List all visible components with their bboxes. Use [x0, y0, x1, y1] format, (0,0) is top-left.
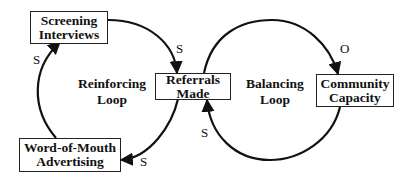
- polarity-referrals-to-capacity: O: [340, 42, 349, 56]
- loop-label-line2: Loop: [72, 92, 152, 108]
- link-screening-to-referrals: [108, 20, 177, 73]
- loop-label-line2: Loop: [237, 92, 313, 108]
- node-community-capacity: Community Capacity: [316, 74, 394, 107]
- link-referrals-to-wom: [121, 99, 178, 160]
- link-referrals-to-capacity: [204, 20, 338, 74]
- polarity-capacity-to-referrals: S: [201, 126, 208, 140]
- loop-label-reinforcing: Reinforcing Loop: [72, 76, 152, 108]
- node-word-of-mouth-advertising: Word-of-Mouth Advertising: [19, 138, 121, 172]
- node-referrals-made: Referrals Made: [155, 73, 231, 100]
- polarity-wom-to-screening: S: [33, 53, 40, 67]
- node-label-line1: Screening: [39, 14, 100, 28]
- node-label-line1: Community: [320, 77, 389, 91]
- link-wom-to-screening: [38, 42, 60, 138]
- node-label-line1: Referrals: [166, 73, 220, 87]
- link-capacity-to-referrals: [207, 100, 340, 160]
- loop-label-line1: Reinforcing: [72, 76, 152, 92]
- loop-label-balancing: Balancing Loop: [237, 76, 313, 108]
- node-label-line2: Interviews: [39, 28, 100, 42]
- loop-label-line1: Balancing: [237, 76, 313, 92]
- polarity-screening-to-referrals: S: [176, 42, 183, 56]
- node-label-line2: Advertising: [24, 155, 116, 169]
- node-label-line2: Made: [166, 87, 220, 101]
- node-label-line1: Word-of-Mouth: [24, 141, 116, 155]
- node-label-line2: Capacity: [320, 91, 389, 105]
- polarity-referrals-to-wom: S: [140, 155, 147, 169]
- node-screening-interviews: Screening Interviews: [30, 11, 108, 44]
